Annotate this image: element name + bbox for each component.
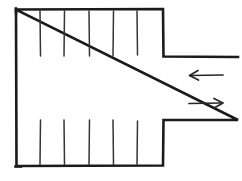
fin-top-1 xyxy=(40,11,41,56)
diagram-background xyxy=(0,0,242,181)
fin-bottom-5 xyxy=(137,121,138,165)
fin-bottom-2 xyxy=(64,120,65,165)
fin-top-3 xyxy=(89,11,90,56)
fin-top-2 xyxy=(64,11,65,56)
fin-top-5 xyxy=(137,11,138,55)
fin-top-4 xyxy=(113,11,114,56)
flow-diagram-svg xyxy=(0,0,242,181)
fin-bottom-4 xyxy=(113,120,114,165)
outlet-arrow-shaft xyxy=(189,103,222,104)
fin-bottom-1 xyxy=(40,120,41,165)
fin-bottom-3 xyxy=(89,120,90,165)
inlet-arrow-shaft xyxy=(190,75,223,76)
diagram-canvas xyxy=(0,0,242,181)
